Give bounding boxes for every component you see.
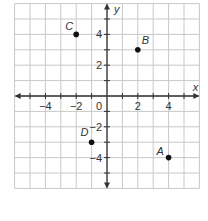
x-tick-label: 2 <box>135 100 141 112</box>
y-axis-up-arrow-icon <box>104 4 110 10</box>
x-axis-label: x <box>192 81 199 93</box>
y-tick-label: −2 <box>89 121 102 133</box>
y-axis-label: y <box>113 3 121 15</box>
y-tick-label: −4 <box>89 152 102 164</box>
x-tick-label: −4 <box>39 100 52 112</box>
point-label-a: A <box>156 145 164 157</box>
y-tick-label: 2 <box>96 59 102 71</box>
x-axis-right-arrow-icon <box>193 93 199 99</box>
y-axis-down-arrow-icon <box>104 182 110 188</box>
origin-label: 0 <box>96 100 102 112</box>
coordinate-plane: −4−22442−2−40xyABCD <box>0 0 208 221</box>
point-b <box>135 47 141 53</box>
point-a <box>166 155 172 161</box>
x-tick-label: −2 <box>70 100 83 112</box>
point-label-c: C <box>65 20 73 32</box>
y-tick-label: 4 <box>96 28 102 40</box>
x-tick-label: 4 <box>166 100 172 112</box>
point-label-d: D <box>81 126 89 138</box>
point-c <box>73 32 79 38</box>
point-label-b: B <box>142 34 149 46</box>
x-axis-left-arrow-icon <box>15 93 21 99</box>
point-d <box>89 139 95 145</box>
